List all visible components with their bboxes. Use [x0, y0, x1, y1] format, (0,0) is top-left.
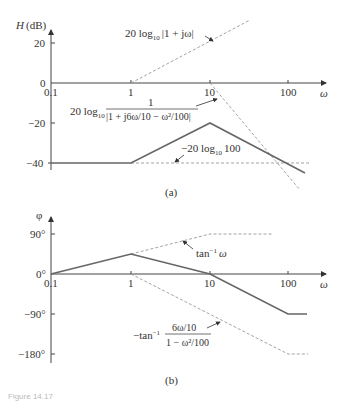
magnitude-total-curve — [51, 123, 305, 173]
y-tick-90: 90° — [30, 228, 45, 240]
x-tick-1: 1 — [128, 86, 134, 98]
svg-text:|1 + j6ω/10 − ω²/100|: |1 + j6ω/10 − ω²/100| — [106, 111, 191, 122]
x-axis-label-omega: ω — [320, 278, 328, 290]
bode-plot-figure: H (dB) 20 0 −20 −40 0.1 1 10 100 ω 20 lo… — [0, 0, 341, 408]
magnitude-plot: H (dB) 20 0 −20 −40 0.1 1 10 100 ω 20 lo… — [15, 19, 328, 199]
phase-total-curve — [51, 254, 307, 314]
svg-text:6ω/10: 6ω/10 — [172, 322, 196, 333]
svg-text:20 log10|1 + jω|: 20 log10|1 + jω| — [125, 27, 194, 42]
y-axis-label-phi: φ — [36, 209, 42, 221]
panel-label-a: (a) — [165, 186, 178, 199]
annotation-constant: −20 log10100 — [175, 142, 241, 162]
annotation-quadratic-phase: −tan−1 6ω/10 1 − ω²/100 — [133, 322, 220, 348]
x-tick-1: 1 — [128, 277, 134, 289]
asymptote-quadratic — [210, 83, 300, 190]
x-tick-0.1: 0.1 — [44, 277, 58, 289]
svg-text:20 log10: 20 log10 — [70, 105, 105, 120]
x-tick-0.1: 0.1 — [44, 86, 58, 98]
x-tick-100: 100 — [280, 277, 297, 289]
svg-text:tan−1ω: tan−1ω — [196, 247, 227, 259]
svg-text:−tan−1: −tan−1 — [133, 329, 161, 341]
svg-text:−20 log10100: −20 log10100 — [181, 142, 241, 157]
y-tick-minus90: −90° — [24, 308, 46, 320]
panel-label-b: (b) — [165, 374, 178, 387]
y-tick-minus20: −20 — [28, 117, 46, 129]
y-axis-unit: (dB) — [26, 19, 47, 32]
annotation-arctan-w: tan−1ω — [183, 241, 227, 259]
y-tick-minus40: −40 — [26, 157, 44, 169]
figure-caption: Figure 14.17 — [8, 392, 53, 401]
x-tick-100: 100 — [280, 86, 297, 98]
y-axis-label: H — [15, 19, 25, 31]
phase-plot: φ 90° 0° −90° −180° 0.1 1 10 100 ω tan−1… — [18, 209, 328, 387]
x-tick-10: 10 — [204, 277, 216, 289]
annotation-quadratic: 20 log10 1 |1 + j6ω/10 − ω²/100| — [70, 96, 217, 122]
y-tick-minus180: −180° — [18, 348, 45, 360]
annotation-1-plus-jw: 20 log10|1 + jω| — [125, 27, 213, 42]
svg-text:1 − ω²/100: 1 − ω²/100 — [166, 337, 209, 348]
y-tick-20: 20 — [34, 37, 46, 49]
svg-text:1: 1 — [148, 96, 154, 108]
x-axis-label-omega: ω — [320, 87, 328, 99]
